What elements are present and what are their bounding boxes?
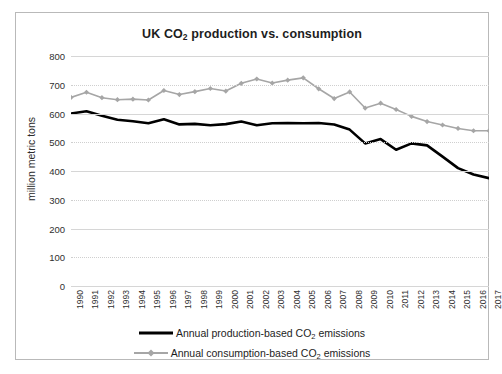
x-axis-tick-label: 1999 [214, 290, 224, 309]
gridline [71, 85, 489, 87]
legend-label-production-pre: Annual production-based CO [176, 327, 311, 339]
y-axis-tick-label: 600 [49, 108, 65, 119]
gridline [71, 56, 489, 57]
x-axis-tick-label: 1996 [168, 290, 178, 309]
x-axis-tick-label: 2011 [400, 290, 410, 308]
chart-title: UK CO2 production vs. consumption [16, 27, 488, 41]
chart-title-pre: UK CO [142, 27, 183, 41]
x-axis-tick-label: 2009 [369, 290, 379, 309]
series-marker [115, 97, 120, 102]
x-axis-tick-label: 2006 [323, 290, 333, 309]
x-axis-tick-label: 2004 [292, 290, 302, 309]
y-axis-tick-label: 400 [49, 166, 65, 177]
series-marker [71, 95, 74, 100]
x-axis-tick-label: 1991 [90, 290, 100, 309]
x-axis-tick-label: 2017 [493, 290, 502, 309]
series-marker [378, 101, 383, 106]
x-axis-tick-label: 2014 [447, 290, 457, 309]
legend-label-consumption-pre: Annual consumption-based CO [171, 347, 317, 359]
x-axis-tick-label: 1992 [106, 290, 116, 309]
x-axis-tick-label: 2015 [462, 290, 472, 309]
x-axis-tick-label: 2008 [354, 290, 364, 309]
x-axis-tick-label: 2001 [245, 290, 255, 309]
gridline [71, 114, 489, 115]
legend-label-consumption-post: emissions [321, 347, 371, 359]
gridline [71, 286, 489, 287]
series-marker [486, 128, 489, 133]
x-axis-tick-label: 2012 [416, 290, 426, 309]
chart-title-subscript: 2 [183, 32, 188, 42]
x-axis-tick-label: 2007 [338, 290, 348, 309]
x-axis-tick-label: 2003 [276, 290, 286, 309]
gridline [71, 257, 489, 259]
x-axis-tick-label: 2013 [431, 290, 441, 309]
y-axis-tick-label: 700 [49, 79, 65, 90]
legend-label-production: Annual production-based CO2 emissions [176, 327, 365, 339]
x-axis-tick-label: 1997 [183, 290, 193, 309]
series-marker [130, 97, 135, 102]
legend-item-production: Annual production-based CO2 emissions [16, 323, 488, 343]
y-axis-tick-label: 0 [60, 281, 65, 292]
gridline [71, 200, 489, 202]
y-axis-tick-label: 500 [49, 137, 65, 148]
gridline [71, 142, 489, 144]
x-axis-tick-label: 2005 [307, 290, 317, 309]
legend-label-consumption: Annual consumption-based CO2 emissions [171, 347, 371, 359]
series-marker [192, 89, 197, 94]
legend-label-production-post: emissions [315, 327, 365, 339]
y-axis-title: million metric tons [25, 69, 37, 249]
series-marker [285, 78, 290, 83]
x-axis-tick-label: 1998 [199, 290, 209, 309]
gridline [71, 229, 489, 230]
series-marker [424, 119, 429, 124]
x-axis-tick-label: 1993 [121, 290, 131, 309]
x-axis-tick-label: 1990 [75, 290, 85, 309]
series-marker [99, 95, 104, 100]
series-marker [471, 128, 476, 133]
plot-area: 0100200300400500600700800 [71, 56, 489, 286]
legend-label-production-subscript: 2 [311, 332, 315, 341]
series-marker [440, 122, 445, 127]
chart-legend: Annual production-based CO2 emissions An… [16, 323, 488, 363]
legend-swatch-consumption-icon [134, 347, 168, 359]
y-axis-tick-label: 200 [49, 223, 65, 234]
x-axis-tick-label: 2016 [478, 290, 488, 309]
series-marker [409, 114, 414, 119]
legend-label-consumption-subscript: 2 [317, 352, 321, 361]
x-axis-tick-label: 1994 [137, 290, 147, 309]
legend-item-consumption: Annual consumption-based CO2 emissions [16, 343, 488, 363]
y-axis-tick-label: 300 [49, 194, 65, 205]
x-axis-tick-label: 1995 [152, 290, 162, 309]
x-axis-tick-label: 2002 [261, 290, 271, 309]
series-marker [455, 126, 460, 131]
series-marker [223, 88, 228, 93]
series-marker [394, 107, 399, 112]
legend-swatch-production-icon [139, 327, 173, 339]
chart-title-post: production vs. consumption [188, 27, 362, 41]
y-axis-tick-label: 800 [49, 51, 65, 62]
x-axis-tick-label: 2000 [230, 290, 240, 309]
series-marker [84, 90, 89, 95]
chart-container: UK CO2 production vs. consumption millio… [15, 12, 489, 360]
series-marker [254, 76, 259, 81]
gridline [71, 171, 489, 172]
y-axis-tick-label: 100 [49, 252, 65, 263]
series-marker [177, 92, 182, 97]
x-axis-tick-label: 2010 [385, 290, 395, 309]
